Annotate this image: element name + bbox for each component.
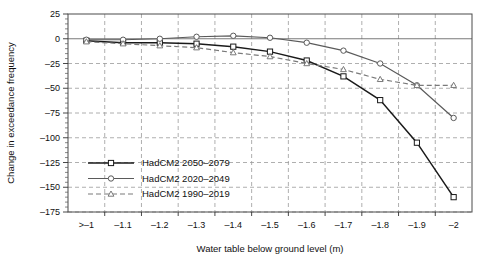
- data-point-circle: [108, 176, 113, 181]
- y-tick-label: –175: [40, 207, 60, 217]
- data-point-square: [231, 44, 236, 49]
- data-point-circle: [341, 48, 346, 53]
- legend-label: HadCM2 2050–2079: [142, 157, 230, 168]
- x-tick-label: –1.2: [151, 220, 169, 230]
- data-point-circle: [451, 115, 456, 120]
- data-point-square: [108, 160, 113, 165]
- y-tick-label: –150: [40, 182, 60, 192]
- exceedance-frequency-chart: 250–25–50–75–100–125–150–175 >–1–1.1–1.2…: [0, 0, 488, 262]
- legend-label: HadCM2 1990–2019: [142, 188, 230, 199]
- x-tick-label: –1.5: [261, 220, 279, 230]
- y-tick-label: –100: [40, 133, 60, 143]
- x-tick-label: –1.1: [114, 220, 132, 230]
- x-tick-label: –1.3: [188, 220, 206, 230]
- data-point-circle: [377, 61, 382, 66]
- x-tick-label: >–1: [79, 220, 94, 230]
- data-point-circle: [157, 36, 162, 41]
- data-point-square: [378, 98, 383, 103]
- y-tick-label: –75: [45, 108, 60, 118]
- x-tick-label: –1.8: [371, 220, 389, 230]
- y-tick-label: –50: [45, 83, 60, 93]
- x-tick-label: –1.6: [298, 220, 316, 230]
- legend-label: HadCM2 2020–2049: [142, 173, 230, 184]
- y-tick-label: –125: [40, 158, 60, 168]
- data-point-circle: [231, 33, 236, 38]
- data-point-circle: [194, 34, 199, 39]
- y-tick-label: 25: [50, 9, 60, 19]
- x-tick-label: –1.4: [225, 220, 243, 230]
- data-point-square: [451, 195, 456, 200]
- y-axis-title: Change in exceedance frequency: [5, 42, 16, 184]
- y-tick-label: 0: [55, 34, 60, 44]
- x-tick-label: –1.7: [335, 220, 353, 230]
- y-tick-label: –25: [45, 59, 60, 69]
- x-axis-title: Water table below ground level (m): [197, 243, 344, 254]
- x-tick-label: –2: [449, 220, 459, 230]
- x-tick-label: –1.9: [408, 220, 426, 230]
- data-point-circle: [304, 40, 309, 45]
- data-point-circle: [267, 35, 272, 40]
- data-point-square: [341, 74, 346, 79]
- data-point-square: [414, 140, 419, 145]
